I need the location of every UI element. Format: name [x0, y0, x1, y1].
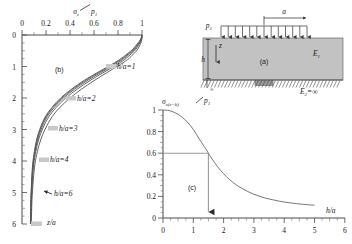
svg-text:p1: p1 — [203, 96, 210, 106]
hatch-line — [320, 81, 323, 88]
hatch-line — [323, 81, 326, 88]
panel-b-annot-4: h/a=6 — [54, 189, 73, 198]
panel-b-ytick-6: 6 — [12, 220, 16, 229]
svg-text:σz(z=h): σz(z=h) — [162, 97, 179, 107]
hatch-line — [218, 81, 221, 88]
panel-b-label: (b) — [55, 66, 64, 74]
hatch-line — [276, 81, 279, 88]
panel-c-xtick-0: 0 — [161, 226, 165, 235]
panel-c-xtick-3: 3 — [252, 226, 256, 235]
hatch-line — [330, 81, 333, 88]
panel-c-x-axis-label: h/a — [326, 206, 336, 215]
panel-c-ytick-2: 0.4 — [147, 171, 157, 180]
panel-b-chart: 0 0.2 0.4 0.6 0.8 1 σz p1 — [12, 5, 144, 230]
panel-b-x-ticks — [22, 30, 142, 35]
panel-c-curve — [163, 110, 315, 205]
panel-b-ytick-2: 2 — [12, 94, 16, 103]
diagram-a: p1 a h z E1 (a) — [201, 7, 343, 97]
hatch-line — [296, 81, 299, 88]
diagram-a-load-arrows — [221, 26, 307, 37]
diagram-a-panel-label: (a) — [260, 58, 269, 66]
panel-c-chart: 1 0.8 0.6 0.4 0.2 0 — [147, 96, 347, 235]
hatch-line — [337, 81, 340, 88]
panel-c-ytick-3: 0.6 — [147, 149, 157, 158]
panel-b-xtick-3: 0.6 — [89, 19, 99, 28]
panel-c-xtick-5: 5 — [313, 226, 317, 235]
diagram-a-z-label: z — [218, 41, 222, 50]
hatch-line — [225, 81, 228, 88]
diagram-a-load-label: p1 — [205, 21, 212, 31]
panel-b-xtick-4: 0.8 — [113, 19, 123, 28]
panel-b-xtick-0: 0 — [20, 19, 24, 28]
diagram-a-depth-label: h — [201, 55, 205, 64]
panel-c-ytick-4: 0.8 — [147, 128, 157, 137]
hatch-line — [221, 81, 224, 88]
panel-c-ytick-5: 1 — [152, 106, 156, 115]
hatch-line — [235, 81, 238, 88]
figure-container: 0 0.2 0.4 0.6 0.8 1 σz p1 — [0, 0, 352, 244]
hatch-line — [214, 81, 217, 88]
hatch-line — [252, 81, 255, 88]
panel-b-xtick-1: 0.2 — [41, 19, 51, 28]
hatch-line — [248, 81, 251, 88]
panel-b-xtick-5: 1 — [140, 19, 144, 28]
panel-b-ytick-0: 0 — [12, 31, 16, 40]
panel-b-annotations: h/a=1 h/a=2 h/a=3 h/a=4 h/a=6 z/a — [31, 62, 135, 227]
panel-b-xtick-2: 0.4 — [65, 19, 75, 28]
hatch-line — [286, 81, 289, 88]
panel-c-y-ticks — [158, 110, 163, 218]
svg-text:h/a: h/a — [326, 206, 336, 215]
panel-b-ytick-4: 4 — [12, 157, 16, 166]
hatch-line — [228, 81, 231, 88]
hatch-line — [293, 81, 296, 88]
hatch-line — [289, 81, 292, 88]
panel-b-annot-0: h/a=1 — [117, 62, 135, 71]
panel-b-y-ticks — [22, 35, 27, 224]
panel-c-y-axis-label: σz(z=h) p1 — [162, 96, 210, 107]
svg-text:p1: p1 — [90, 7, 97, 17]
hatch-line — [333, 81, 336, 88]
hatch-line — [238, 81, 241, 88]
panel-b-annot-2: h/a=3 — [59, 124, 78, 133]
panel-c-xtick-6: 6 — [343, 226, 347, 235]
hatch-line — [279, 81, 282, 88]
diagram-a-width-label: a — [282, 7, 286, 16]
panel-c-ytick-0: 0 — [152, 214, 156, 223]
panel-c-xtick-4: 4 — [282, 226, 286, 235]
hatch-line — [327, 81, 330, 88]
hatch-line — [245, 81, 248, 88]
panel-c-annotation-lines — [163, 153, 208, 212]
panel-b-x-axis-label: σz p1 — [73, 5, 97, 17]
diagram-a-left-support-label: ∞ — [210, 87, 214, 92]
hatch-line — [201, 81, 204, 88]
panel-b-ytick-5: 5 — [12, 189, 16, 198]
panel-b-annot-3: h/a=4 — [50, 155, 69, 164]
panel-c-x-ticks — [163, 218, 345, 223]
panel-c-xtick-1: 1 — [191, 226, 195, 235]
hatch-line — [242, 81, 245, 88]
panel-b-annot-1: h/a=2 — [77, 94, 96, 103]
hatch-line — [231, 81, 234, 88]
diagram-a-width-dimension: a — [264, 7, 306, 25]
panel-b-y-axis-label: z/a — [46, 218, 56, 227]
diagram-a-rigid-base — [201, 80, 343, 88]
diagram-a-layer-block — [203, 38, 343, 80]
figure-svg: 0 0.2 0.4 0.6 0.8 1 σz p1 — [0, 0, 352, 244]
panel-c-label: (c) — [188, 184, 196, 192]
panel-b-ytick-3: 3 — [12, 126, 16, 135]
panel-c-xtick-2: 2 — [222, 226, 226, 235]
diagram-a-modulus-base-label: E2=∞ — [299, 87, 318, 97]
panel-b-ytick-1: 1 — [12, 63, 16, 72]
svg-text:σz: σz — [73, 7, 79, 17]
panel-c-ytick-1: 0.2 — [147, 192, 157, 201]
hatch-line — [282, 81, 285, 88]
